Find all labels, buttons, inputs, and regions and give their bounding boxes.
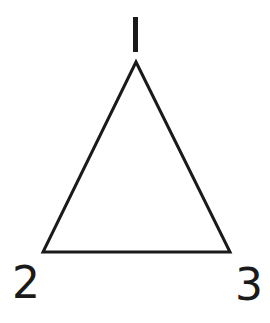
triangle-shape [43, 62, 230, 252]
vertex-label-3: 3 [235, 259, 263, 310]
vertex-label-1: 1 [133, 17, 138, 52]
triangle-diagram: 1 2 3 [0, 0, 270, 323]
vertex-label-2: 2 [12, 257, 40, 308]
